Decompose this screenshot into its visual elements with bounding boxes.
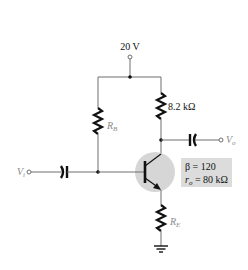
input-capacitor [31,166,98,178]
input-terminal [27,170,31,174]
output-label: Vo [226,134,236,147]
ground-icon [154,246,168,252]
re-label: RE [169,216,181,229]
beta-value: β = 120 [185,161,216,172]
rc-label: 8.2 kΩ [168,101,195,112]
resistor-re [157,190,165,246]
input-label: Vi [17,166,25,179]
supply-voltage-label: 20 V [120,41,140,52]
output-capacitor [161,134,219,146]
supply-terminal [128,55,132,59]
resistor-rb [94,77,102,172]
supply-junction-dot [128,75,132,79]
resistor-rc [157,77,165,154]
npn-transistor [98,152,175,192]
rb-label: RB [106,120,118,133]
output-terminal [219,138,223,142]
circuit-diagram: 20 V RB 8.2 kΩ Vo Vi [0,0,248,270]
